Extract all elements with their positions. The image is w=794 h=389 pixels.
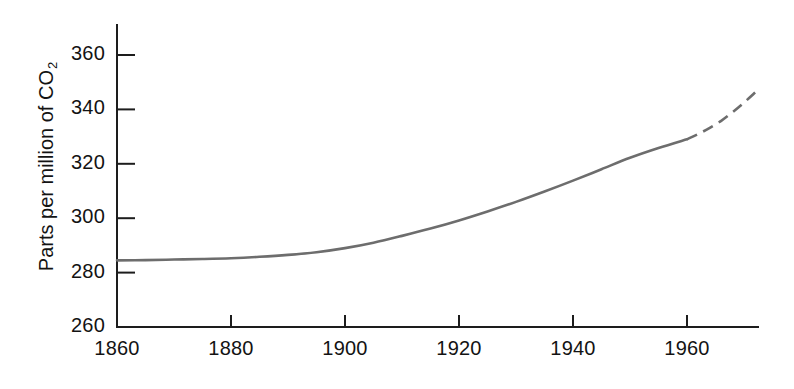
y-tick-label: 360 [47,42,105,65]
x-tick-label: 1940 [533,337,613,360]
co2-dashed-line [687,92,755,139]
y-tick-label: 280 [47,260,105,283]
x-tick-label: 1860 [77,337,157,360]
x-tick-label: 1920 [419,337,499,360]
axes-group [117,25,758,327]
co2-solid-line [117,139,687,260]
x-axis-tick-marks [231,315,687,327]
y-axis-tick-marks [117,55,135,273]
x-tick-label: 1960 [647,337,727,360]
x-tick-label: 1880 [191,337,271,360]
x-tick-label: 1900 [305,337,385,360]
y-tick-label: 340 [47,96,105,119]
y-tick-label: 260 [47,314,105,337]
axis-lines [117,25,758,327]
y-tick-label: 300 [47,205,105,228]
y-tick-label: 320 [47,151,105,174]
chart-figure: Parts per million of CO2 260280300320340… [0,0,794,389]
chart-plot-area [0,0,794,389]
